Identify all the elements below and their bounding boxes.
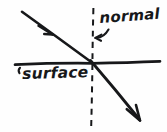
incident-ray-arrowhead [39, 26, 53, 35]
normal-label: normal [99, 7, 160, 26]
incident-ray [22, 12, 92, 63]
surface-label: surface [22, 65, 89, 82]
refracted-ray [91, 61, 141, 121]
normal-dashed-line [91, 8, 93, 126]
refraction-diagram: normal surface [0, 0, 167, 132]
normal-pointer-arrow [95, 30, 108, 41]
surface-pointer-tick [19, 68, 20, 73]
